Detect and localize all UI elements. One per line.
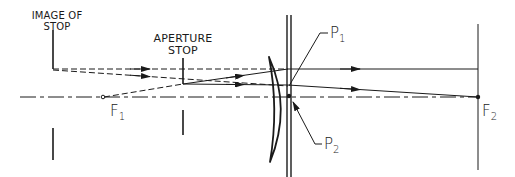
f2-label: F2 — [482, 104, 497, 122]
f2-label-sub: 2 — [491, 111, 497, 122]
p2-label: P2 — [324, 137, 339, 155]
principal-point — [287, 94, 291, 98]
aperture-stop-label-line1: APERTURE — [146, 33, 220, 44]
p1-leader — [289, 33, 328, 86]
p1-label: P1 — [330, 26, 345, 44]
p1-label-sub: 1 — [339, 33, 345, 44]
meniscus-lens — [269, 57, 281, 162]
p1-label-main: P — [330, 24, 339, 42]
image-of-stop-label-line2: STOP — [28, 22, 86, 32]
p2-leader — [293, 102, 322, 144]
image-of-stop-label-line1: IMAGE OF — [28, 11, 86, 21]
p2-label-sub: 2 — [333, 144, 339, 155]
focal-point-f2 — [476, 95, 480, 99]
focal-point-f1 — [101, 95, 105, 99]
image-of-stop-label: IMAGE OF STOP — [28, 11, 86, 32]
ray-from-f1 — [104, 84, 183, 97]
f1-label-main: F — [110, 102, 119, 120]
p2-label-main: P — [324, 135, 333, 153]
real-ray-2b-arrow — [340, 88, 360, 89]
aperture-stop-label: APERTURE STOP — [146, 33, 220, 56]
f1-label-sub: 1 — [119, 111, 125, 122]
real-ray-1a-arrow — [226, 75, 244, 78]
aperture-stop-label-line2: STOP — [146, 45, 220, 56]
virtual-ray-slant — [53, 70, 288, 86]
real-ray-2b — [288, 85, 478, 97]
f1-label: F1 — [110, 104, 125, 122]
virtual-ray-slant-arrow — [130, 75, 150, 76]
f2-label-main: F — [482, 102, 491, 120]
